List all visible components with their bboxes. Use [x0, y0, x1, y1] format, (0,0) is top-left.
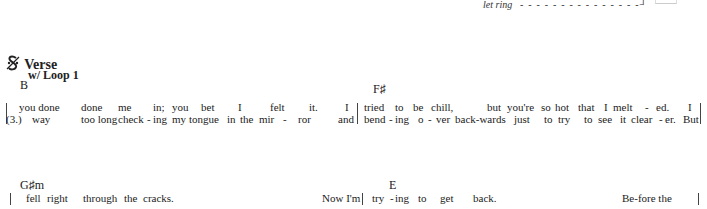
lyric-syllable: I — [604, 101, 608, 113]
barline-start — [10, 193, 11, 205]
lyric-syllable: - — [659, 113, 663, 125]
barline-end — [698, 193, 699, 205]
lyric-syllable: I — [345, 101, 349, 113]
lyric-syllable: try — [372, 192, 384, 204]
lyric-syllable: back. — [473, 192, 497, 204]
lyric-syllable: fell — [26, 192, 41, 204]
lyric-syllable: - — [390, 192, 394, 204]
barline-end — [700, 103, 701, 124]
lyric-syllable: to — [395, 101, 404, 113]
lyric-syllable: - — [283, 113, 287, 125]
chord-symbol: G♯m — [20, 178, 44, 193]
lyric-syllable: you're — [507, 101, 534, 113]
lyric-syllable: o — [418, 113, 424, 125]
lyric-syllable: - — [147, 113, 151, 125]
lyric-syllable: mir — [259, 113, 274, 125]
lyric-syllable: clear — [631, 113, 652, 125]
lyric-syllable: check — [118, 113, 144, 125]
lyric-syllable: bet — [201, 101, 214, 113]
lyric-syllable: - — [428, 113, 432, 125]
lyric-syllable: tongue — [189, 113, 219, 125]
lyric-syllable: tried — [364, 101, 384, 113]
lyric-syllable: done — [81, 101, 102, 113]
lyric-syllable: ing — [395, 113, 409, 125]
chord-symbol: F♯ — [373, 82, 386, 97]
lyric-syllable: bend — [364, 113, 385, 125]
lyric-syllable: the — [124, 192, 137, 204]
lyric-syllable: right — [47, 192, 68, 204]
lyric-syllable: But — [683, 113, 699, 125]
lyric-syllable: ver — [436, 113, 450, 125]
chord-symbol: E — [389, 178, 396, 193]
lyric-syllable: that — [578, 101, 595, 113]
lyric-syllable: ing — [153, 113, 167, 125]
lyric-syllable: my — [172, 113, 186, 125]
lyric-syllable: ing — [395, 192, 409, 204]
lyric-syllable: cracks. — [143, 192, 174, 204]
lyric-syllable: to — [584, 113, 593, 125]
lyric-syllable: to — [418, 192, 427, 204]
lyric-syllable: be — [413, 101, 423, 113]
lyric-syllable: too long — [81, 113, 117, 125]
lyric-syllable: way — [32, 113, 50, 125]
lyric-syllable: but — [487, 101, 501, 113]
lyric-syllable: you — [172, 101, 189, 113]
barline-mid — [357, 103, 358, 124]
let-ring-extension-line: - - - - - - - - - - - - - - -┘ — [520, 0, 648, 10]
lyric-syllable: felt — [270, 101, 285, 113]
lyric-syllable: me — [118, 101, 131, 113]
lyric-syllable: ror — [298, 113, 311, 125]
chord-symbol: B — [20, 78, 28, 93]
lyric-syllable: in; — [153, 101, 165, 113]
lyric-syllable: melt — [613, 101, 633, 113]
lyric-syllable: Be-fore the — [622, 192, 672, 204]
lyric-syllable: I — [688, 101, 692, 113]
lyric-syllable: try — [558, 113, 570, 125]
segno-icon — [6, 54, 24, 73]
lyric-syllable: er. — [665, 113, 676, 125]
barline-mid — [362, 193, 363, 205]
lyric-syllable: - — [389, 113, 393, 125]
lyric-syllable: Now I'm — [322, 192, 360, 204]
lyric-syllable: ed. — [656, 101, 669, 113]
lyric-syllable: the — [240, 113, 253, 125]
lyric-syllable: and — [338, 113, 354, 125]
lyric-syllable: to — [544, 113, 553, 125]
lyric-syllable: it — [620, 113, 626, 125]
lyric-syllable: see — [598, 113, 612, 125]
lyric-syllable: through — [83, 192, 117, 204]
let-ring-label: let ring — [483, 0, 512, 10]
loop-label: w/ Loop 1 — [28, 68, 79, 83]
lyric-syllable: just — [514, 113, 530, 125]
lyric-syllable: so — [541, 101, 551, 113]
lyric-syllable: hot — [555, 101, 569, 113]
lyric-syllable: (3.) — [6, 113, 22, 125]
lyric-syllable: it. — [309, 101, 318, 113]
lyric-syllable: chill, — [431, 101, 453, 113]
lyric-syllable: - — [645, 101, 649, 113]
top-right-box — [655, 0, 677, 4]
lyric-syllable: you done — [19, 101, 60, 113]
lyric-syllable: I — [238, 101, 242, 113]
lyric-syllable: back-wards — [455, 113, 506, 125]
lyric-syllable: in — [227, 113, 236, 125]
lyric-syllable: get — [440, 192, 453, 204]
